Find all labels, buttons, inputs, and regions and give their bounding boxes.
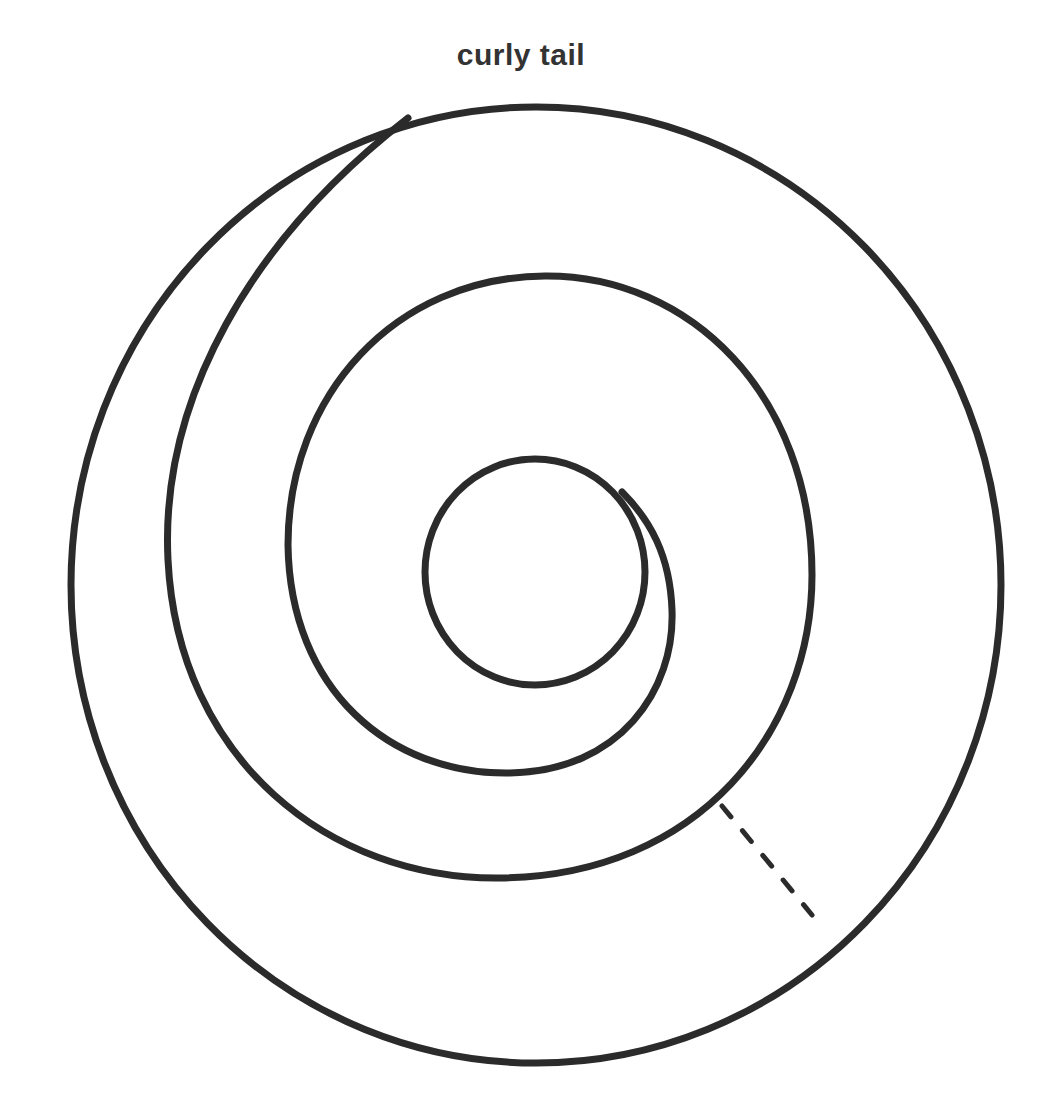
spiral-outer-turn — [168, 118, 812, 878]
inner-loop — [425, 459, 645, 685]
curly-tail-diagram — [0, 0, 1042, 1102]
outer-circle — [71, 107, 1001, 1063]
dashed-connector — [722, 806, 812, 915]
